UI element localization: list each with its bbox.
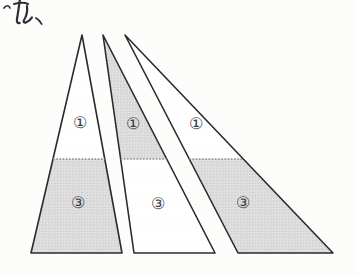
- diagram-stage: ① ③ ① ③ ① ③: [0, 0, 358, 277]
- triangle-1-lower-label: ③: [71, 194, 85, 211]
- triangle-3-upper-label: ①: [189, 115, 203, 132]
- triangle-1-upper-region: [53, 35, 105, 159]
- triangle-3-lower-region: [189, 159, 333, 253]
- triangle-3-lower-label: ③: [236, 194, 250, 211]
- triangle-2-lower-label: ③: [151, 195, 165, 212]
- triangle-2-upper-label: ①: [126, 115, 140, 132]
- triangles-svg: ① ③ ① ③ ① ③: [0, 0, 358, 277]
- figure-canvas: ① ③ ① ③ ① ③: [0, 0, 358, 277]
- triangle-1-upper-label: ①: [73, 114, 87, 131]
